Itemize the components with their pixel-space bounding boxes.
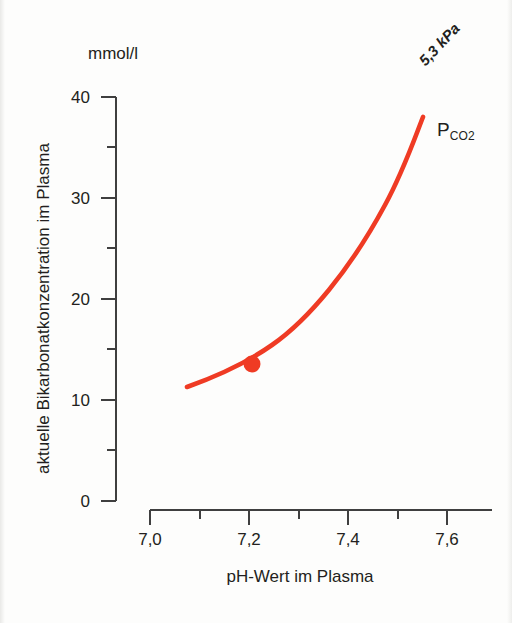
y-tick-label-20: 20	[50, 291, 90, 308]
pco2-sub-2: 2	[468, 129, 475, 143]
measurement-point-marker	[244, 356, 261, 373]
y-tick-label-10: 10	[50, 392, 90, 409]
x-tick-label-7-4: 7,4	[318, 531, 378, 548]
y-tick-label-40: 40	[50, 89, 90, 106]
pco2-sub-co: CO	[450, 129, 468, 143]
pco2-symbol-annotation: PCO2	[437, 120, 475, 139]
figure-canvas: mmol/l 40 30 20 10 0 7,0 7,2 7,4 7,6 akt…	[0, 0, 512, 623]
pco2-symbol-sub: CO2	[450, 129, 475, 143]
x-tick-label-7-0: 7,0	[120, 531, 180, 548]
y-tick-label-0: 0	[50, 493, 90, 510]
y-axis-title: aktuelle Bikarbonatkonzentration im Plas…	[35, 109, 52, 509]
pco2-isobar-curve	[187, 117, 423, 387]
x-axis-title: pH-Wert im Plasma	[200, 568, 400, 585]
x-axis-ticks	[150, 510, 447, 525]
pco2-symbol-main: P	[437, 119, 450, 140]
x-tick-label-7-6: 7,6	[417, 531, 477, 548]
x-tick-label-7-2: 7,2	[219, 531, 279, 548]
y-axis-unit-label: mmol/l	[88, 45, 138, 62]
y-tick-label-30: 30	[50, 190, 90, 207]
y-axis-ticks	[101, 97, 116, 501]
